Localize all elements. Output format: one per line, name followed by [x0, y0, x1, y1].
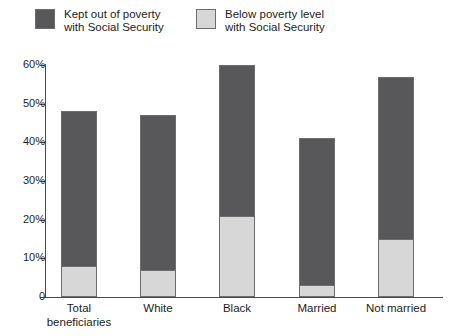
bar-segment-kept-out-of-poverty[interactable] [299, 138, 335, 285]
bar-segment-kept-out-of-poverty[interactable] [61, 111, 97, 266]
x-axis-label-line-1: Married [298, 302, 337, 314]
x-axis-label-line-2: beneficiaries [24, 316, 134, 330]
plot-area: 010%20%30%40%50%60% TotalbeneficiariesWh… [0, 0, 449, 336]
poverty-status-chart: Kept out of poverty with Social Security… [0, 0, 449, 336]
x-axis-label-line-1: Black [223, 302, 251, 314]
bar-group-black[interactable] [219, 65, 255, 297]
bar-segment-below-poverty-level[interactable] [299, 285, 335, 297]
bar-group-married[interactable] [299, 138, 335, 297]
bar-segment-kept-out-of-poverty[interactable] [219, 65, 255, 216]
bar-segment-below-poverty-level[interactable] [61, 266, 97, 297]
bar-segment-below-poverty-level[interactable] [378, 239, 414, 297]
bar-segment-below-poverty-level[interactable] [219, 216, 255, 297]
x-axis-label-line-1: Not married [366, 302, 426, 314]
bar-group-not-married[interactable] [378, 77, 414, 297]
x-axis-label-line-1: White [143, 302, 172, 314]
bar-group-total-beneficiaries[interactable] [61, 111, 97, 297]
x-axis-label-line-1: Total [67, 302, 91, 314]
bar-segment-kept-out-of-poverty[interactable] [140, 115, 176, 270]
x-axis-label-not-married: Not married [341, 302, 449, 316]
bar-segment-below-poverty-level[interactable] [140, 270, 176, 297]
bar-group-white[interactable] [140, 115, 176, 297]
bar-segment-kept-out-of-poverty[interactable] [378, 77, 414, 239]
bars-layer [0, 0, 449, 336]
